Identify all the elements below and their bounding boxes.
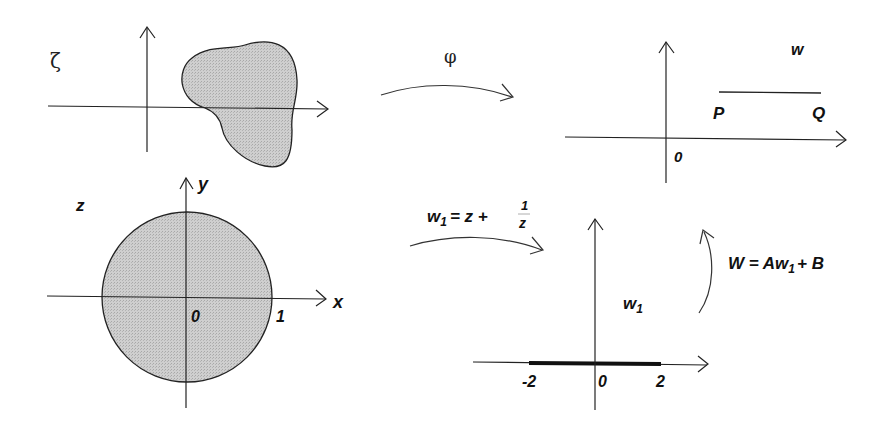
tick-label-neg2: -2 [522, 373, 536, 390]
linear-arrowhead [700, 230, 714, 244]
fraction-numerator: 1 [521, 198, 528, 213]
y-axis-label: y [197, 174, 209, 194]
joukowski-arrowhead [530, 237, 543, 254]
joukowski-mapping: w1= z + 1 z [410, 198, 543, 254]
linear-arrow [699, 232, 712, 313]
linear-mapping: W = Aw1+ B [699, 230, 824, 313]
z-plane: z y x 0 1 [47, 174, 344, 408]
w-origin-label: 0 [674, 148, 683, 165]
w1-plane: w1 -2 0 2 [473, 219, 708, 410]
w-plane-label: w [791, 41, 805, 58]
linear-map-formula: W = Aw1+ B [728, 254, 824, 276]
w1-origin-label: 0 [598, 373, 607, 390]
z-origin-label: 0 [191, 308, 200, 325]
zeta-plane: ζ [48, 27, 328, 167]
phi-mapping: φ [381, 46, 513, 101]
joukowski-formula: w1= z + [427, 207, 488, 229]
tick-label-2: 2 [655, 373, 665, 390]
point-q-label: Q [812, 104, 825, 123]
phi-arrow [381, 85, 512, 97]
phi-label: φ [444, 46, 457, 67]
w-x-axis [565, 137, 846, 140]
zeta-plane-label: ζ [50, 49, 61, 73]
z-plane-label: z [75, 196, 85, 215]
zeta-region [182, 42, 297, 167]
x-axis-label: x [332, 292, 344, 312]
fraction-denominator: z [518, 215, 526, 231]
w1-x-arrowhead [698, 356, 708, 372]
point-p-label: P [713, 104, 725, 123]
unit-label: 1 [276, 308, 285, 325]
z-x-arrowhead [316, 290, 326, 306]
w-plane: w P Q 0 [565, 41, 846, 183]
pq-segment [719, 92, 821, 93]
joukowski-arrow [410, 237, 542, 250]
w-x-arrowhead [836, 131, 846, 147]
w1-plane-label: w1 [623, 294, 643, 316]
phi-arrowhead [500, 84, 513, 101]
